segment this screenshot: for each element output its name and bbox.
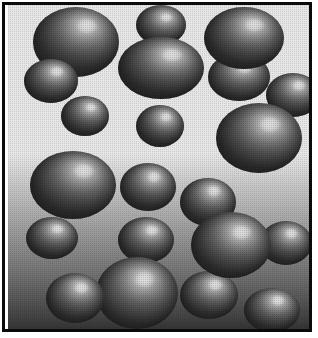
sphere-halftone-texture	[118, 37, 204, 99]
render-scene	[8, 5, 309, 329]
sphere-halftone-texture	[180, 271, 238, 319]
sphere-halftone-texture	[204, 7, 284, 69]
sphere	[136, 105, 184, 147]
sphere-halftone-texture	[118, 217, 174, 263]
figure-container	[0, 0, 318, 338]
sphere-halftone-texture	[96, 257, 178, 329]
sphere-halftone-texture	[216, 103, 302, 173]
sphere-halftone-texture	[26, 217, 78, 259]
sphere	[96, 257, 178, 329]
sphere-halftone-texture	[136, 105, 184, 147]
sphere	[30, 151, 116, 219]
sphere	[24, 59, 78, 103]
sphere-halftone-texture	[244, 288, 300, 329]
sphere	[61, 96, 109, 136]
sphere	[120, 163, 176, 211]
sphere-halftone-texture	[30, 151, 116, 219]
sphere	[46, 273, 104, 323]
sphere	[216, 103, 302, 173]
sphere	[191, 212, 271, 278]
sphere	[180, 271, 238, 319]
sphere	[118, 37, 204, 99]
sphere	[204, 7, 284, 69]
sphere	[244, 288, 300, 329]
sphere-halftone-texture	[120, 163, 176, 211]
sphere	[118, 217, 174, 263]
sphere-halftone-texture	[24, 59, 78, 103]
sphere	[26, 217, 78, 259]
sphere-halftone-texture	[191, 212, 271, 278]
sphere-halftone-texture	[46, 273, 104, 323]
figure-frame-border	[2, 2, 312, 332]
figure-matte	[5, 5, 309, 329]
sphere-halftone-texture	[61, 96, 109, 136]
